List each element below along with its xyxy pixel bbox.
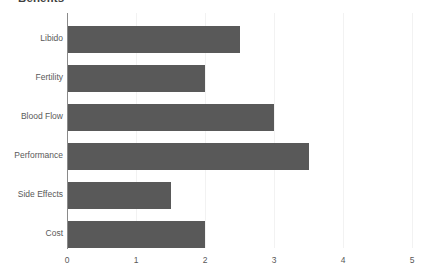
gridline-5 bbox=[412, 13, 413, 248]
x-tick-label-2: 2 bbox=[190, 255, 220, 265]
x-tick-label-3: 3 bbox=[259, 255, 289, 265]
x-tick-label-4: 4 bbox=[328, 255, 358, 265]
category-label-libido: Libido bbox=[1, 33, 63, 43]
gridline-3 bbox=[274, 13, 275, 248]
gridline-4 bbox=[343, 13, 344, 248]
bar-cost[interactable] bbox=[67, 221, 205, 248]
x-tick-label-5: 5 bbox=[397, 255, 427, 265]
bar-chart: Benefits Libido Fertility Bloo bbox=[0, 0, 433, 276]
x-axis: 0 1 2 3 4 5 bbox=[67, 249, 412, 269]
category-label-cost: Cost bbox=[1, 228, 63, 238]
bar-performance[interactable] bbox=[67, 143, 309, 170]
category-label-performance: Performance bbox=[1, 150, 63, 160]
bar-blood-flow[interactable] bbox=[67, 104, 274, 131]
x-tick-label-1: 1 bbox=[121, 255, 151, 265]
category-label-side-effects: Side Effects bbox=[1, 189, 63, 199]
bar-side-effects[interactable] bbox=[67, 182, 171, 209]
chart-title: Benefits bbox=[18, 0, 64, 4]
bar-fertility[interactable] bbox=[67, 65, 205, 92]
bar-libido[interactable] bbox=[67, 26, 240, 53]
category-axis: Libido Fertility Blood Flow Performance … bbox=[0, 13, 63, 248]
plot-area bbox=[67, 13, 412, 248]
category-label-blood-flow: Blood Flow bbox=[1, 111, 63, 121]
y-axis-line bbox=[67, 13, 68, 249]
category-label-fertility: Fertility bbox=[1, 72, 63, 82]
x-tick-label-0: 0 bbox=[52, 255, 82, 265]
